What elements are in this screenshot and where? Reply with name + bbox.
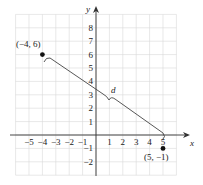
y-axis-label: y (85, 4, 90, 14)
point-a (40, 52, 45, 57)
x-tick-label: −4 (38, 137, 48, 147)
y-tick-label: 6 (89, 50, 94, 60)
point-b-label: (5, −1) (144, 152, 169, 162)
x-tick-labels: −5−4−3−2−112345 (24, 137, 166, 147)
x-tick-label: −2 (64, 137, 74, 147)
x-tick-label: 1 (107, 137, 112, 147)
x-tick-label: −5 (24, 137, 34, 147)
point-a-label: (−4, 6) (16, 39, 41, 49)
distance-label: d (111, 85, 116, 95)
y-tick-label: 8 (89, 23, 94, 33)
x-tick-label: −3 (51, 137, 61, 147)
distance-brace (44, 58, 165, 139)
point-b (161, 146, 166, 151)
y-tick-label: 7 (89, 36, 94, 46)
y-tick-label: 1 (89, 117, 94, 127)
x-tick-label: 3 (134, 137, 139, 147)
axes: x y (10, 4, 194, 176)
y-tick-label: 2 (89, 103, 94, 113)
x-tick-label: 4 (147, 137, 152, 147)
y-tick-label: 5 (89, 63, 94, 73)
y-tick-label: 3 (89, 90, 94, 100)
x-tick-label: 2 (121, 137, 126, 147)
y-tick-label: −1 (83, 143, 93, 153)
y-tick-label: −2 (83, 157, 93, 167)
x-axis-label: x (189, 138, 194, 148)
coordinate-plane: x y −5−4−3−2−112345 87654321−1−2 d (−4, … (0, 0, 203, 185)
